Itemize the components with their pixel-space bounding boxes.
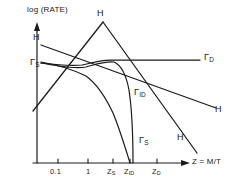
curve-label-h-top-base: H bbox=[97, 8, 104, 18]
curve-h-upper-descending bbox=[41, 45, 216, 108]
curve-gamma-d bbox=[41, 60, 200, 65]
x-tick-label-0: 0.1 bbox=[50, 168, 61, 177]
curve-label-gamma-id-sub: ID bbox=[139, 91, 145, 98]
curve-label-gamma-d-right: ΓD bbox=[204, 53, 214, 63]
curve-label-gamma-id: ΓID bbox=[134, 88, 146, 98]
x-tick-label-zd: ZD bbox=[152, 168, 161, 177]
curve-label-gamma-s-left: ΓS bbox=[30, 58, 40, 68]
curve-label-h-lower-right: H bbox=[177, 133, 184, 143]
curve-label-gamma-s-bottom-sub: S bbox=[144, 139, 148, 146]
x-tick-label-0-base: 0.1 bbox=[50, 167, 61, 176]
curve-label-h-lower-right-base: H bbox=[177, 132, 184, 142]
x-axis-label: Z = M/T bbox=[192, 158, 221, 166]
curve-label-gamma-s-left-sub: S bbox=[35, 61, 39, 68]
x-tick-label-zs-sub: S bbox=[112, 170, 116, 176]
x-axis-arrowhead bbox=[181, 160, 190, 166]
figure-container: log (RATE) Z = M/T 0.1 1 ZS ZID ZD H ΓS … bbox=[0, 0, 236, 186]
curve-label-h-right: H bbox=[215, 105, 222, 115]
y-axis-label: log (RATE) bbox=[27, 6, 68, 14]
x-tick-label-zid: ZID bbox=[124, 168, 134, 177]
curve-label-gamma-s-bottom: ΓS bbox=[139, 136, 149, 146]
curve-label-h-right-base: H bbox=[215, 104, 222, 114]
x-tick-label-1-base: 1 bbox=[86, 167, 90, 176]
curve-label-h-upper-left-base: H bbox=[33, 32, 40, 42]
x-tick-label-zid-sub: ID bbox=[129, 170, 134, 176]
curve-label-h-upper-left: H bbox=[33, 33, 40, 43]
curve-gamma-s bbox=[41, 62, 130, 163]
y-axis-arrowhead bbox=[34, 22, 40, 31]
curve-label-gamma-d-right-sub: D bbox=[209, 56, 214, 63]
curve-label-h-top: H bbox=[97, 9, 104, 19]
x-tick-label-zd-sub: D bbox=[157, 170, 161, 176]
x-tick-label-zs: ZS bbox=[107, 168, 115, 177]
x-tick-label-1: 1 bbox=[86, 168, 90, 177]
